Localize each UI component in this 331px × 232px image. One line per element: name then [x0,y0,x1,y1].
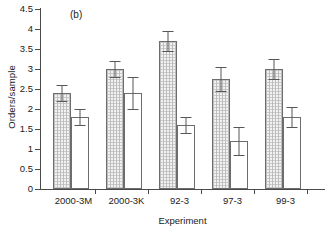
bar-open-92-3 [177,125,195,189]
error-bar-stem [239,127,240,155]
error-bar-cap-upper [216,67,227,68]
error-bar-open-2000-3K [124,77,142,109]
y-axis-tick-label: 4 [28,24,33,34]
x-axis-tick [307,189,308,194]
error-bar-cap-lower [163,51,174,52]
y-axis-tick-label: 1 [28,144,33,154]
error-bar-open-92-3 [177,117,195,133]
error-bar-cap-lower [57,101,68,102]
x-axis-category-label: 99-3 [247,196,324,206]
error-bar-cap-upper [57,85,68,86]
y-axis-tick [35,189,40,190]
x-axis-title: Experiment [40,216,325,226]
error-bar-stem [80,109,81,125]
y-axis-tick [35,169,40,170]
x-axis-line [40,189,325,190]
y-axis-tick [35,29,40,30]
bar-hatched-97-3 [212,79,230,189]
bar-hatched-2000-3M [53,93,71,189]
error-bar-hatched-99-3 [265,59,283,79]
error-bar-cap-lower [181,133,192,134]
y-axis-tick-label: 2 [28,104,33,114]
error-bar-cap-upper [181,117,192,118]
error-bar-open-2000-3M [71,109,89,125]
error-bar-cap-upper [75,109,86,110]
x-axis-tick [254,189,255,194]
error-bar-cap-upper [287,107,298,108]
error-bar-open-99-3 [283,107,301,127]
error-bar-open-97-3 [230,127,248,155]
error-bar-cap-lower [269,79,280,80]
error-bar-cap-upper [234,127,245,128]
y-axis-tick [35,89,40,90]
error-bar-cap-upper [110,61,121,62]
y-axis-tick [35,49,40,50]
error-bar-stem [62,85,63,101]
error-bar-stem [168,31,169,51]
bar-open-2000-3M [71,117,89,189]
error-bar-hatched-2000-3K [106,61,124,77]
y-axis-tick-label: 3.5 [20,44,33,54]
y-axis-tick-label: 0 [28,184,33,194]
error-bar-cap-lower [216,91,227,92]
y-axis-tick [35,109,40,110]
error-bar-stem [133,77,134,109]
error-bar-cap-lower [128,109,139,110]
error-bar-stem [115,61,116,77]
y-axis-tick-label: 4.5 [20,4,33,14]
x-axis-tick [95,189,96,194]
error-bar-hatched-92-3 [159,31,177,51]
error-bar-cap-lower [110,77,121,78]
error-bar-stem [292,107,293,127]
error-bar-cap-upper [163,31,174,32]
error-bar-hatched-2000-3M [53,85,71,101]
y-axis-tick [35,9,40,10]
bar-hatched-99-3 [265,69,283,189]
y-axis-tick-label: 0.5 [20,164,33,174]
error-bar-stem [221,67,222,91]
error-bar-hatched-97-3 [212,67,230,91]
error-bar-cap-lower [75,125,86,126]
y-axis-title: Orders/sample [7,57,17,137]
x-axis-tick [148,189,149,194]
error-bar-stem [186,117,187,133]
error-bar-stem [274,59,275,79]
y-axis-tick-label: 1.5 [20,124,33,134]
y-axis-tick [35,69,40,70]
x-axis-tick [201,189,202,194]
plot-area [41,9,324,189]
error-bar-cap-upper [269,59,280,60]
error-bar-cap-upper [128,77,139,78]
error-bar-cap-lower [287,127,298,128]
y-axis-tick [35,149,40,150]
bar-hatched-92-3 [159,41,177,189]
figure-panel-b: 4.543.532.521.510.50 Orders/sample Exper… [0,0,331,232]
y-axis-tick [35,129,40,130]
bar-hatched-2000-3K [106,69,124,189]
error-bar-cap-lower [234,155,245,156]
y-axis-tick-label: 2.5 [20,84,33,94]
y-axis-tick-label: 3 [28,64,33,74]
